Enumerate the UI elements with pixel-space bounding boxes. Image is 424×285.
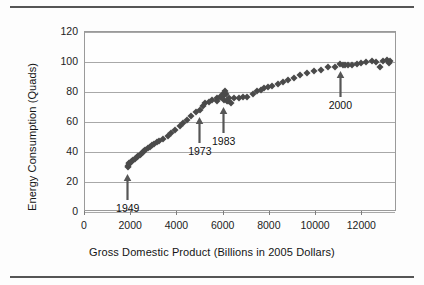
annotation-label: 1973 xyxy=(175,146,225,157)
figure-page: Energy Consumption (Quads) 0204060801001… xyxy=(0,0,424,285)
annotation-arrow-icon xyxy=(123,174,132,200)
gridline xyxy=(85,122,395,123)
gridline xyxy=(85,152,395,153)
annotation-label: 2000 xyxy=(315,100,365,111)
y-axis-tick-label: 60 xyxy=(44,116,78,127)
plot-area: 1949197319832000 xyxy=(84,31,396,211)
gridline xyxy=(85,92,395,93)
data-point xyxy=(324,64,331,71)
annotation-arrow-icon xyxy=(219,107,228,133)
y-axis-tick-label: 80 xyxy=(44,86,78,97)
x-axis-tick-mark xyxy=(130,211,131,215)
x-axis-title: Gross Domestic Product (Billions in 2005… xyxy=(0,246,424,258)
x-axis-tick-mark xyxy=(84,211,85,215)
x-axis-tick-mark xyxy=(315,211,316,215)
y-axis-title: Energy Consumption (Quads) xyxy=(26,63,38,211)
y-axis-tick-label: 40 xyxy=(44,146,78,157)
gridline xyxy=(85,32,395,33)
data-point xyxy=(317,66,324,73)
scatter-chart: Energy Consumption (Quads) 0204060801001… xyxy=(0,0,424,285)
x-axis-tick-mark xyxy=(223,211,224,215)
y-axis-tick-label: 120 xyxy=(44,26,78,37)
data-point xyxy=(310,67,317,74)
x-axis-tick-mark xyxy=(269,211,270,215)
annotation-label: 1949 xyxy=(103,203,153,214)
x-axis-tick-label: 12000 xyxy=(331,220,391,231)
x-axis-tick-mark xyxy=(361,211,362,215)
y-axis-tick-label: 20 xyxy=(44,176,78,187)
x-axis-tick-mark xyxy=(176,211,177,215)
annotation-arrow-icon xyxy=(336,71,345,97)
data-point xyxy=(376,64,383,71)
y-axis-tick-label: 0 xyxy=(44,206,78,217)
annotation-label: 1983 xyxy=(199,136,249,147)
y-axis-tick-label: 100 xyxy=(44,56,78,67)
